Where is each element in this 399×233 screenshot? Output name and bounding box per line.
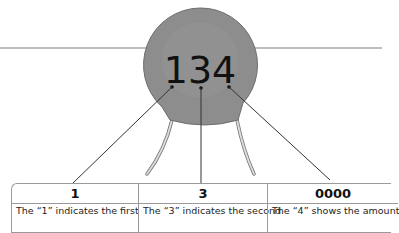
column-header: 1 — [12, 184, 138, 204]
column-second-digit: 3 The “3” indicates the second — [139, 184, 267, 232]
column-first-digit: 1 The “1” indicates the first — [12, 184, 138, 232]
capacitor-marking: 134 — [164, 48, 237, 92]
column-description: The “4” shows the amount — [268, 205, 398, 217]
pointer-line-1 — [73, 87, 172, 183]
pointer-line-4 — [229, 87, 330, 180]
column-header: 3 — [139, 184, 267, 204]
column-header: 0000 — [268, 184, 398, 204]
code-table: 1 The “1” indicates the first 3 The “3” … — [11, 183, 391, 233]
column-description: The “1” indicates the first — [12, 205, 138, 217]
column-description: The “3” indicates the second — [139, 205, 267, 217]
column-multiplier: 0000 The “4” shows the amount — [268, 184, 398, 232]
